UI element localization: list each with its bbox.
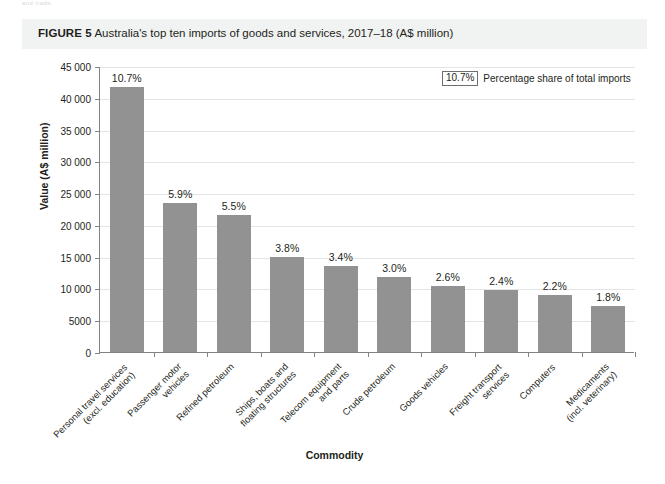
y-axis-tick bbox=[95, 289, 100, 290]
bar-value-label: 2.2% bbox=[543, 280, 567, 292]
x-axis-category-label: Freight transportservices bbox=[447, 361, 511, 425]
y-axis-tick bbox=[95, 67, 100, 68]
y-axis-tick-label: 15 000 bbox=[60, 252, 91, 263]
x-axis-tick bbox=[635, 352, 636, 357]
bar: 3.8% bbox=[270, 257, 304, 352]
y-axis-tick-label: 40 000 bbox=[60, 93, 91, 104]
x-axis-title: Commodity bbox=[22, 449, 647, 461]
bar-value-label: 2.6% bbox=[436, 271, 460, 283]
x-axis-category-line: Goods vehicles bbox=[397, 361, 450, 414]
gridline bbox=[100, 162, 635, 163]
y-axis-tick-label: 10 000 bbox=[60, 284, 91, 295]
bar: 3.0% bbox=[377, 277, 411, 352]
bar: 5.9% bbox=[163, 203, 197, 352]
y-axis-tick bbox=[95, 194, 100, 195]
x-axis-category-label: Computers bbox=[517, 361, 557, 401]
x-axis-tick bbox=[207, 352, 208, 357]
y-axis-tick bbox=[95, 258, 100, 259]
bar: 2.2% bbox=[538, 295, 572, 352]
bar: 3.4% bbox=[324, 266, 358, 352]
figure-caption-text: Australia's top ten imports of goods and… bbox=[94, 27, 453, 39]
y-axis-tick-label: 0 bbox=[85, 348, 91, 359]
y-axis-title: Value (A$ million) bbox=[38, 122, 50, 210]
x-axis-tick bbox=[582, 352, 583, 357]
figure-caption: FIGURE 5 Australia's top ten imports of … bbox=[38, 27, 453, 39]
bar-value-label: 5.5% bbox=[222, 200, 246, 212]
y-axis-tick-label: 30 000 bbox=[60, 157, 91, 168]
x-axis-tick bbox=[475, 352, 476, 357]
gridline bbox=[100, 99, 635, 100]
bar: 5.5% bbox=[217, 215, 251, 352]
y-axis-tick-label: 35 000 bbox=[60, 125, 91, 136]
x-axis-tick bbox=[154, 352, 155, 357]
y-axis-tick bbox=[95, 321, 100, 322]
bar: 1.8% bbox=[591, 306, 625, 352]
y-axis-tick-label: 45 000 bbox=[60, 62, 91, 73]
bar-value-label: 3.0% bbox=[382, 262, 406, 274]
bar: 2.6% bbox=[431, 286, 465, 352]
x-axis-category-line: (excl. education) bbox=[59, 369, 137, 447]
y-axis-tick bbox=[95, 131, 100, 132]
x-axis-category-line: Personal travel services bbox=[51, 361, 129, 439]
bar: 2.4% bbox=[484, 290, 518, 352]
x-axis-tick bbox=[421, 352, 422, 357]
x-axis-category-label: Goods vehicles bbox=[397, 361, 450, 414]
page-bleed-text: and trade. bbox=[22, 0, 53, 6]
x-axis-category-label: Crude petroleum bbox=[340, 361, 397, 418]
bar-value-label: 3.8% bbox=[275, 242, 299, 254]
x-axis-tick bbox=[368, 352, 369, 357]
y-axis-tick-label: 20 000 bbox=[60, 220, 91, 231]
y-axis-tick-label: 5000 bbox=[69, 316, 91, 327]
bar-value-label: 5.9% bbox=[168, 188, 192, 200]
figure-container: FIGURE 5 Australia's top ten imports of … bbox=[22, 19, 647, 474]
bar-value-label: 2.4% bbox=[489, 275, 513, 287]
y-axis-tick bbox=[95, 226, 100, 227]
y-axis-tick bbox=[95, 162, 100, 163]
y-axis-tick bbox=[95, 353, 100, 354]
x-axis-tick bbox=[261, 352, 262, 357]
x-axis-category-label: Medicaments(incl. veterinary) bbox=[556, 361, 619, 424]
gridline bbox=[100, 67, 635, 68]
x-axis-tick bbox=[314, 352, 315, 357]
x-axis-category-line: Computers bbox=[517, 361, 557, 401]
plot-area: 0500010 00015 00020 00025 00030 00035 00… bbox=[99, 67, 634, 353]
y-axis-tick-label: 25 000 bbox=[60, 189, 91, 200]
gridline bbox=[100, 131, 635, 132]
figure-label: FIGURE 5 bbox=[38, 27, 92, 39]
x-axis-tick bbox=[528, 352, 529, 357]
y-axis-tick bbox=[95, 99, 100, 100]
figure-caption-band: FIGURE 5 Australia's top ten imports of … bbox=[22, 19, 647, 49]
x-axis-category-line: Crude petroleum bbox=[340, 361, 397, 418]
bar-value-label: 10.7% bbox=[112, 72, 142, 84]
bar-value-label: 1.8% bbox=[596, 291, 620, 303]
bar-value-label: 3.4% bbox=[329, 251, 353, 263]
bar: 10.7% bbox=[110, 87, 144, 352]
x-axis-category-label: Personal travel services(excl. education… bbox=[51, 361, 137, 447]
